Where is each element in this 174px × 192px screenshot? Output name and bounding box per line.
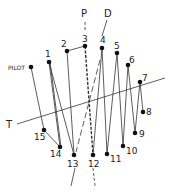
label-8: 8	[146, 107, 152, 117]
points	[29, 44, 146, 158]
label-15: 15	[34, 132, 45, 142]
traverse-diagram: T P D	[0, 0, 174, 192]
point-13	[72, 153, 77, 158]
line-d-main	[76, 60, 100, 152]
label-13: 13	[67, 159, 78, 169]
label-4: 4	[100, 35, 106, 45]
line-p-tail	[93, 168, 95, 186]
line-d-tail	[71, 168, 75, 186]
label-7: 7	[142, 73, 148, 83]
label-5: 5	[114, 41, 120, 51]
label-10: 10	[126, 146, 138, 156]
point-9	[133, 131, 138, 136]
label-t: T	[5, 119, 13, 130]
point-10	[121, 144, 126, 149]
point-5	[115, 51, 120, 56]
point-2	[65, 49, 70, 54]
label-p: P	[81, 8, 87, 19]
label-12: 12	[88, 159, 99, 169]
point-labels: PILOT 1 2 3 4 5 6 7 8 9 10 11 12 13 14 1…	[8, 34, 152, 169]
point-1	[47, 60, 52, 65]
line-d	[102, 20, 107, 36]
label-d: D	[104, 8, 112, 19]
point-3	[83, 44, 88, 49]
point-11	[105, 152, 110, 157]
label-1: 1	[45, 49, 51, 59]
point-4	[100, 46, 105, 51]
point-8	[141, 110, 146, 115]
label-3: 3	[82, 34, 88, 44]
label-6: 6	[129, 55, 135, 65]
label-2: 2	[61, 39, 67, 49]
label-pilot: PILOT	[8, 64, 25, 71]
point-pilot	[29, 65, 34, 70]
label-9: 9	[139, 129, 145, 139]
label-11: 11	[110, 154, 121, 164]
line-t	[17, 78, 165, 124]
label-14: 14	[50, 149, 62, 159]
point-12	[91, 153, 96, 158]
